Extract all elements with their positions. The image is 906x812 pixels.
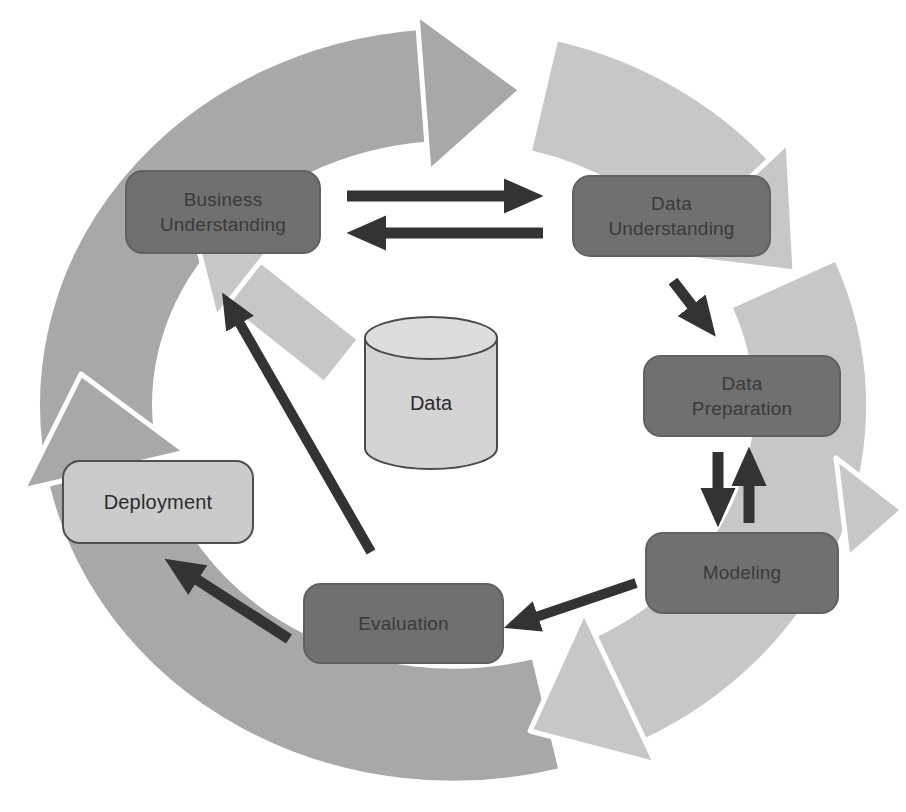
crisp-dm-diagram: Business Understanding Data Understandin… xyxy=(0,0,906,812)
node-data-preparation: Data Preparation xyxy=(643,355,841,437)
node-data-understanding: Data Understanding xyxy=(572,175,771,257)
node-data-preparation-label: Data Preparation xyxy=(692,371,792,421)
node-business-understanding: Business Understanding xyxy=(125,170,321,254)
ring-arrowhead-right-edge-icon xyxy=(836,458,903,558)
ring-arrowhead-top-icon xyxy=(417,14,521,172)
node-evaluation-label: Evaluation xyxy=(358,611,449,636)
node-modeling: Modeling xyxy=(645,532,839,614)
node-data-understanding-label: Data Understanding xyxy=(608,191,734,241)
node-business-understanding-label: Business Understanding xyxy=(160,187,286,237)
arrow-du-to-dp xyxy=(673,281,693,307)
data-cylinder-top xyxy=(365,317,497,359)
node-deployment: Deployment xyxy=(62,460,254,544)
node-modeling-label: Modeling xyxy=(703,560,782,585)
data-store-label: Data xyxy=(365,392,497,415)
node-evaluation: Evaluation xyxy=(303,583,504,664)
node-deployment-label: Deployment xyxy=(104,489,213,515)
